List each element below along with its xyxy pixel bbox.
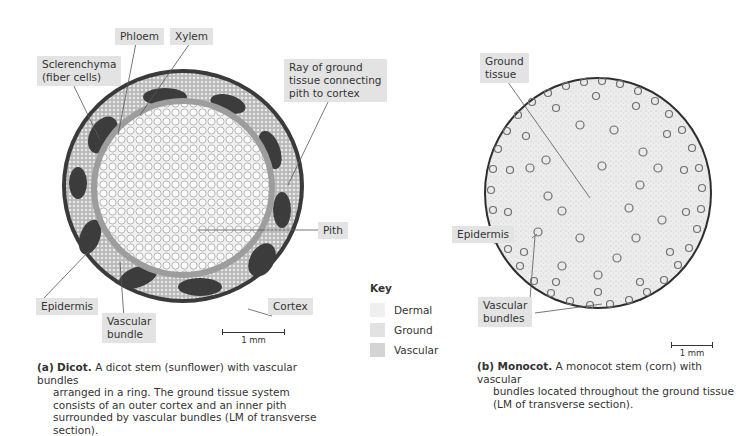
dicot-caption: (a) Dicot. A dicot stem (sunflower) with… xyxy=(37,361,327,436)
dicot-scale-bar: 1 mm xyxy=(222,329,285,345)
key-item-dermal: Dermal xyxy=(370,300,438,320)
label-epidermis-monocot: Epidermis xyxy=(452,226,514,243)
key-item-vascular: Vascular xyxy=(370,340,438,360)
monocot-scale-bar: 1 mm xyxy=(671,342,713,358)
tissue-key-legend: Key Dermal Ground Vascular xyxy=(370,282,438,360)
label-pith: Pith xyxy=(318,222,348,239)
label-vascular-bundle: Vascular bundle xyxy=(102,313,156,343)
ground-swatch xyxy=(370,323,385,337)
monocot-stem-section xyxy=(484,77,712,309)
label-epidermis-dicot: Epidermis xyxy=(36,298,98,315)
dicot-stem-section xyxy=(62,69,304,303)
label-sclerenchyma: Sclerenchyma (fiber cells) xyxy=(37,56,121,86)
label-ray-of-ground-tissue: Ray of ground tissue connecting pith to … xyxy=(284,59,387,102)
label-xylem: Xylem xyxy=(170,28,213,45)
label-ground-tissue: Ground tissue xyxy=(480,53,529,83)
monocot-caption: (b) Monocot. A monocot stem (corn) with … xyxy=(477,360,747,410)
label-vascular-bundles: Vascular bundles xyxy=(478,297,532,327)
key-title: Key xyxy=(370,282,438,294)
key-item-ground: Ground xyxy=(370,320,438,340)
label-phloem: Phloem xyxy=(115,28,164,45)
label-cortex: Cortex xyxy=(268,298,313,315)
dermal-swatch xyxy=(370,303,385,317)
vascular-swatch xyxy=(370,343,385,357)
